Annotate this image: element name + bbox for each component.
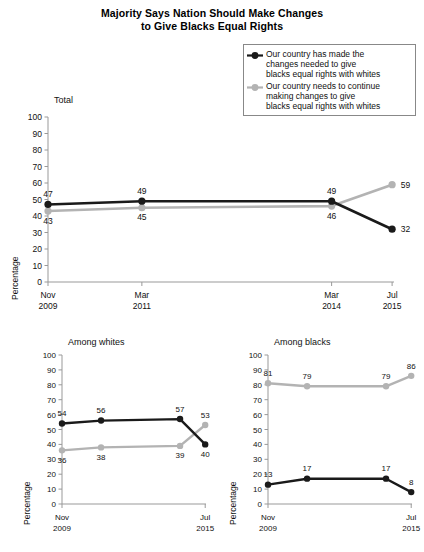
data-point-value-label: 53 xyxy=(201,411,210,420)
panel-title: Total xyxy=(54,95,73,105)
data-point xyxy=(177,443,183,449)
data-point xyxy=(98,444,104,450)
data-point xyxy=(383,383,389,389)
y-tick-label: 30 xyxy=(253,455,262,464)
y-tick-label: 90 xyxy=(47,366,56,375)
series-line xyxy=(48,201,392,229)
data-point xyxy=(304,383,310,389)
data-point xyxy=(59,420,65,426)
legend-label-line: blacks equal rights with whites xyxy=(266,69,380,79)
x-tick-label-month: Nov xyxy=(55,513,69,522)
data-point-value-label: 49 xyxy=(327,186,337,196)
legend-item-0: Our country has made thechanges needed t… xyxy=(246,49,412,80)
data-point-value-label: 17 xyxy=(382,464,391,473)
page-title-line-2: to Give Blacks Equal Rights xyxy=(0,20,424,33)
data-point xyxy=(304,475,310,481)
data-point xyxy=(328,198,335,205)
data-point-value-label: 47 xyxy=(43,189,53,199)
series-line xyxy=(48,185,392,211)
data-point-value-label: 57 xyxy=(176,405,185,414)
data-point-value-label: 81 xyxy=(264,369,273,378)
y-tick-label: 20 xyxy=(33,244,43,254)
data-point-value-label: 40 xyxy=(201,450,210,459)
line-chart: 0102030405060708090100Nov2009Jul20153638… xyxy=(18,335,218,550)
x-tick-label-month: Nov xyxy=(40,290,56,300)
y-axis-label: Percentage xyxy=(10,257,20,300)
y-tick-label: 70 xyxy=(33,162,43,172)
x-tick-label-month: Mar xyxy=(135,290,150,300)
gray-diamond-marker xyxy=(246,81,266,94)
legend-label-line: changes needed to give xyxy=(266,59,380,69)
data-point-value-label: 79 xyxy=(303,372,312,381)
data-point-value-label: 13 xyxy=(264,470,273,479)
y-tick-label: 50 xyxy=(33,195,43,205)
y-tick-label: 50 xyxy=(47,426,56,435)
data-point xyxy=(44,201,51,208)
data-point-value-label: 43 xyxy=(43,216,53,226)
x-tick-label-month: Nov xyxy=(261,513,275,522)
data-point-value-label: 86 xyxy=(407,362,416,371)
legend-label-line: Our country has made the xyxy=(266,49,380,59)
y-tick-label: 90 xyxy=(253,366,262,375)
data-point-value-label: 56 xyxy=(97,406,106,415)
data-point-value-label: 38 xyxy=(97,453,106,462)
legend-item-label: Our country has made thechanges needed t… xyxy=(266,49,380,80)
data-point-value-label: 36 xyxy=(58,456,67,465)
x-tick-label-year: 2014 xyxy=(322,301,341,311)
x-tick-label-year: 2015 xyxy=(196,524,214,533)
data-point xyxy=(265,481,271,487)
chart-panel-among-whites: Among whitesPercentage010203040506070809… xyxy=(18,335,218,550)
y-tick-label: 20 xyxy=(253,470,262,479)
y-tick-label: 70 xyxy=(47,396,56,405)
page-title-line-1: Majority Says Nation Should Make Changes xyxy=(0,7,424,20)
y-tick-label: 60 xyxy=(47,411,56,420)
y-axis-label: Percentage xyxy=(22,482,32,525)
series-line xyxy=(62,425,205,450)
x-tick-label-year: 2009 xyxy=(53,524,71,533)
data-point xyxy=(408,373,414,379)
y-tick-label: 30 xyxy=(47,455,56,464)
data-point xyxy=(59,447,65,453)
data-point xyxy=(383,475,389,481)
y-tick-label: 40 xyxy=(47,440,56,449)
line-chart: 0102030405060708090100Nov2009Mar2011Mar2… xyxy=(0,95,424,330)
data-point-value-label: 59 xyxy=(401,180,411,190)
x-tick-label-year: 2011 xyxy=(133,301,152,311)
series-line xyxy=(62,419,205,444)
data-point xyxy=(265,380,271,386)
x-tick-label-month: Jul xyxy=(200,513,210,522)
y-axis-label: Percentage xyxy=(228,482,238,525)
y-tick-label: 0 xyxy=(37,277,42,287)
x-tick-label-year: 2009 xyxy=(259,524,277,533)
y-tick-label: 0 xyxy=(52,500,57,509)
line-chart: 0102030405060708090100Nov2009Jul20158179… xyxy=(224,335,424,550)
data-point-value-label: 45 xyxy=(137,212,147,222)
data-point xyxy=(202,441,208,447)
data-point xyxy=(408,489,414,495)
data-point xyxy=(388,181,395,188)
x-tick-label-month: Jul xyxy=(387,290,398,300)
data-point-value-label: 8 xyxy=(409,478,414,487)
y-tick-label: 40 xyxy=(253,440,262,449)
data-point-value-label: 54 xyxy=(58,409,67,418)
y-tick-label: 90 xyxy=(33,129,43,139)
y-tick-label: 80 xyxy=(253,381,262,390)
y-tick-label: 70 xyxy=(253,396,262,405)
y-tick-label: 100 xyxy=(43,351,57,360)
data-point-value-label: 46 xyxy=(327,211,337,221)
y-tick-label: 60 xyxy=(253,411,262,420)
data-point xyxy=(388,226,395,233)
y-tick-label: 80 xyxy=(33,145,43,155)
y-tick-label: 50 xyxy=(253,426,262,435)
x-tick-label-year: 2015 xyxy=(402,524,420,533)
legend-label-line: Our country needs to continue xyxy=(266,81,380,91)
chart-panel-among-blacks: Among blacksPercentage010203040506070809… xyxy=(224,335,424,550)
panel-title: Among blacks xyxy=(274,337,331,347)
y-tick-label: 80 xyxy=(47,381,56,390)
data-point xyxy=(177,416,183,422)
panel-title: Among whites xyxy=(68,337,125,347)
black-diamond-marker xyxy=(246,49,266,62)
y-tick-label: 100 xyxy=(28,112,42,122)
data-point xyxy=(138,198,145,205)
x-tick-label-year: 2009 xyxy=(39,301,58,311)
